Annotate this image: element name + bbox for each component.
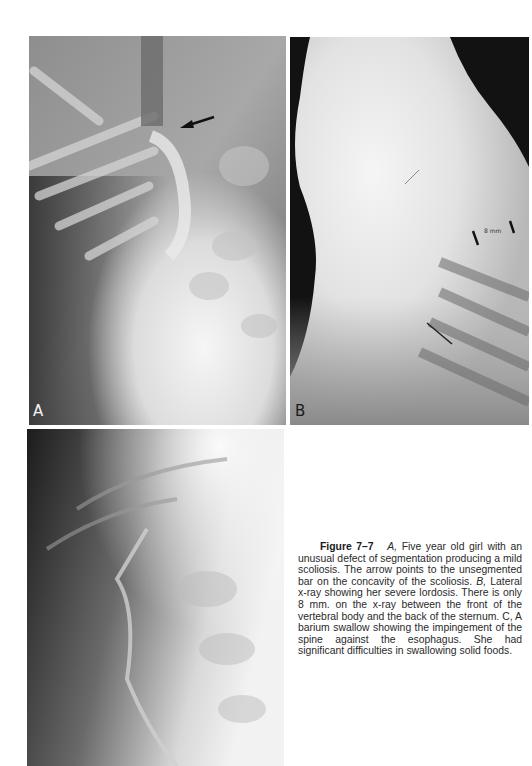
figure-panel-a: A — [29, 36, 286, 425]
measurement-annotation: 8 mm — [484, 227, 502, 234]
xray-image-c — [27, 429, 284, 766]
panel-label-a: A — [33, 404, 43, 419]
figure-caption: Figure 7–7 A, Five year old girl with an… — [298, 541, 522, 657]
xray-image-a — [29, 36, 286, 425]
figure-panel-c — [27, 429, 284, 766]
caption-part-a-label: A, — [387, 541, 397, 552]
figure-number: Figure 7–7 — [320, 541, 374, 552]
xray-image-b: 8 mm — [290, 37, 529, 425]
caption-part-b-label: B, — [476, 576, 486, 587]
figure-panel-b: 8 mm B — [290, 37, 529, 425]
caption-part-c-label: C, — [502, 611, 512, 622]
panel-label-b: B — [295, 404, 305, 419]
